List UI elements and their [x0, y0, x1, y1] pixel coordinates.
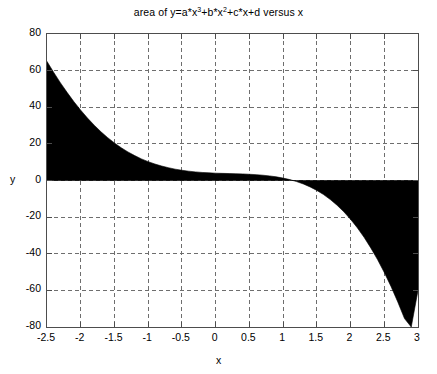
chart-svg: [47, 34, 418, 327]
y-tick-label: 20: [10, 136, 41, 148]
area-fill-series: [47, 61, 418, 327]
y-tick-label: 80: [10, 26, 41, 38]
title-post: +c*x+d versus x: [227, 6, 303, 18]
y-tick-label: 60: [10, 63, 41, 75]
title-pre: area of y=a*x: [134, 6, 197, 18]
plot-area: [46, 33, 419, 328]
chart-title: area of y=a*x3+b*x2+c*x+d versus x: [0, 6, 437, 18]
y-tick-label: 0: [10, 173, 41, 185]
x-tick-label: 3: [397, 331, 437, 343]
x-axis-label: x: [0, 354, 437, 366]
area-polygon: [47, 61, 418, 327]
title-mid: +b*x: [201, 6, 223, 18]
y-tick-label: 40: [10, 99, 41, 111]
y-tick-label: -60: [10, 282, 41, 294]
figure-canvas: area of y=a*x3+b*x2+c*x+d versus x y x -…: [0, 0, 437, 374]
y-tick-label: -20: [10, 209, 41, 221]
y-tick-label: -80: [10, 319, 41, 331]
y-tick-label: -40: [10, 246, 41, 258]
